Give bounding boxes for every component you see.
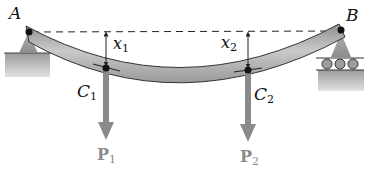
pin-B [338, 27, 345, 34]
P1-letter: P [97, 145, 109, 164]
P2-subscript: 2 [252, 155, 259, 168]
P2-letter: P [240, 147, 252, 166]
P1-subscript: 1 [109, 153, 116, 166]
roller-1 [322, 59, 332, 69]
point-C2 [245, 67, 252, 74]
label-B: B [346, 7, 359, 24]
x1-letter: x [113, 34, 122, 53]
right-ground-block [318, 70, 364, 91]
label-x1: x1 [113, 36, 129, 54]
C2-subscript: 2 [267, 93, 274, 106]
undeflected-reference-line [32, 31, 338, 32]
label-P2: P2 [240, 149, 259, 167]
C2-letter: C [254, 84, 267, 104]
left-ground-block [5, 53, 50, 77]
x1-subscript: 1 [122, 42, 129, 55]
deflected-beam [26, 24, 345, 83]
label-A: A [9, 5, 21, 22]
point-C1 [103, 65, 110, 72]
label-x2: x2 [221, 35, 237, 53]
label-C1: C1 [77, 83, 97, 102]
label-P1: P1 [97, 147, 116, 165]
roller-3 [348, 59, 358, 69]
pin-A [26, 29, 33, 36]
load-arrow-P2 [240, 70, 256, 142]
roller-2 [335, 59, 345, 69]
label-C2: C2 [254, 86, 274, 105]
x2-letter: x [221, 33, 230, 52]
C1-subscript: 1 [90, 90, 97, 103]
C1-letter: C [77, 81, 90, 101]
x2-subscript: 2 [230, 41, 237, 54]
beam-diagram [0, 0, 373, 172]
load-arrow-P1 [98, 68, 114, 140]
